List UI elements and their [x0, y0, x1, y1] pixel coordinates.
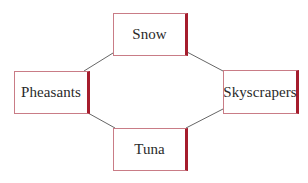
node-label: Pheasants: [21, 84, 81, 101]
node-snow: Snow: [113, 13, 188, 56]
edge-pheasants-snow: [84, 53, 113, 71]
node-skyscrapers: Skyscrapers: [223, 70, 299, 114]
edge-skyscrapers-tuna: [186, 109, 223, 128]
edge-tuna-pheasants: [88, 113, 115, 128]
edge-snow-skyscrapers: [187, 52, 223, 71]
node-label: Tuna: [134, 141, 165, 158]
node-label: Skyscrapers: [223, 84, 297, 101]
node-label: Snow: [132, 26, 167, 43]
node-tuna: Tuna: [113, 128, 188, 171]
node-pheasants: Pheasants: [14, 71, 90, 114]
